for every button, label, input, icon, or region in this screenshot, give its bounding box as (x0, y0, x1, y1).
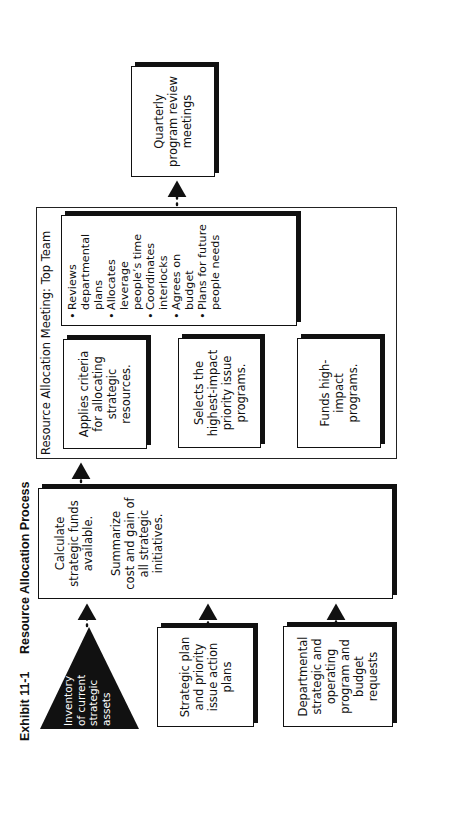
box-text: resources. (119, 364, 133, 423)
box-text: programs. (346, 364, 360, 423)
box-text: issue action (206, 643, 220, 712)
box-text: highest-impact (206, 350, 220, 436)
box-text: program and (338, 639, 352, 713)
box-text: cost and gain of (123, 497, 137, 589)
step-applies-criteria: Applies criteria for allocating strategi… (63, 339, 147, 449)
box-text: all strategic (137, 510, 151, 578)
box-text: strategic and (310, 639, 324, 715)
box-text: Departmental (296, 637, 310, 717)
box-text: and priority (192, 644, 206, 711)
box-text: Strategic plan (178, 637, 192, 717)
box-text: Quarterly (152, 94, 166, 148)
list-item: • Reviewsdepartmentalplans (66, 222, 105, 319)
list-item: • Agrees onbudget (170, 222, 196, 319)
calculate-funds-box: Calculate strategic funds available. Sum… (38, 488, 393, 599)
box-text: Selects the (192, 361, 206, 425)
departmental-box: Departmental strategic and operating pro… (283, 626, 393, 727)
meeting-label: Resource Allocation Meeting: Top Team (39, 231, 53, 455)
box-text: operating (324, 649, 338, 704)
diagram-canvas: Exhibit 11-1 Resource Allocation Process (0, 0, 455, 814)
box-text: program review (166, 76, 180, 167)
quarterly-review-box: Quarterly program review meetings (131, 66, 215, 177)
step-selects-programs: Selects the highest-impact priority issu… (178, 338, 261, 448)
box-text: Calculate (53, 517, 67, 571)
box-text: strategic funds (67, 500, 81, 586)
box-text: meetings (180, 95, 194, 149)
box-text: requests (366, 652, 380, 702)
box-text: strategic (105, 369, 119, 420)
box-text: for allocating (91, 356, 105, 432)
list-item: • Plans for futurepeople needs (196, 222, 222, 319)
box-text: priority issue (220, 356, 234, 431)
list-item: • Allocatesleveragepeople’s time (105, 222, 144, 319)
box-text: initiatives. (151, 514, 165, 574)
box-text: Applies criteria (77, 351, 91, 437)
box-text: available. (81, 516, 95, 572)
box-text: programs. (234, 364, 248, 423)
strategic-plan-box: Strategic plan and priority issue action… (157, 627, 254, 727)
meeting-activities-list: • Reviewsdepartmentalplans • Allocatesle… (61, 215, 297, 326)
box-text: Funds high- (318, 360, 332, 427)
list-item: • Coordinatesinterlocks (144, 222, 170, 319)
box-text: impact (332, 373, 346, 413)
box-text: plans (220, 662, 234, 693)
inventory-label: Inventory of current strategic assets (62, 675, 112, 726)
box-text: budget (352, 656, 366, 697)
box-text: Summarize (109, 511, 123, 576)
step-funds-programs: Funds high- impact programs. (297, 338, 381, 448)
